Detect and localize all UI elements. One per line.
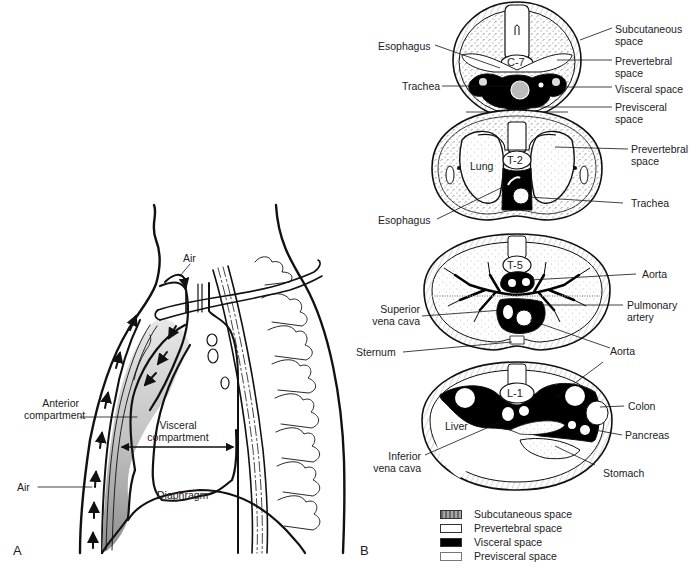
label-ivc-line2: vena cava [355,462,421,474]
label-colon: Colon [628,400,655,412]
vertebra-label-l1: L-1 [507,387,523,399]
vertebra-label-t2: T-2 [507,154,523,166]
anatomy-diagram [0,0,696,570]
panel-b-drawing [403,2,636,490]
label-c7-prevertebral-space: Prevertebral space [615,55,672,79]
label-liver: Liver [445,420,468,432]
label-stomach: Stomach [603,467,644,479]
label-c7-esophagus: Esophagus [378,40,431,52]
label-svc-line2: vena cava [356,315,420,327]
legend-item-subcutaneous: Subcutaneous space [440,507,572,521]
legend: Subcutaneous space Prevertebral space Vi… [440,507,572,563]
label-anterior-compartment: Anterior compartment [24,397,79,421]
label-visceral-line2: compartment [140,431,216,443]
swatch-previsceral [440,552,462,561]
label-visceral-line1: Visceral [140,419,216,431]
label-visceral-space: Visceral space [615,83,683,95]
label-air-bottom: Air [17,481,30,493]
label-anterior-line1: Anterior [24,397,79,409]
panel-letter-b: B [360,543,369,558]
label-t2-prevertebral-line2: space [631,155,688,167]
label-visceral-compartment: Visceral compartment [140,419,216,443]
panel-letter-a: A [13,543,22,558]
label-pulmonary-line2: artery [627,311,677,323]
swatch-visceral [440,538,462,547]
label-sternum: Sternum [356,346,396,358]
vertebra-label-c7: C-7 [507,56,525,68]
label-subcutaneous-space: Subcutaneous space [615,23,682,47]
label-ivc-line1: Inferior [355,450,421,462]
swatch-subcutaneous [440,510,462,519]
label-diaphragm: Diaphragm [157,489,208,501]
label-superior-vena-cava: Superior vena cava [356,303,420,327]
label-previsceral-line2: space [615,113,667,125]
legend-label: Subcutaneous space [474,508,572,520]
vertebra-label-t5: T-5 [507,259,523,271]
label-lung: Lung [470,160,493,172]
label-t2-prevertebral-space: Prevertebral space [631,143,688,167]
legend-label: Visceral space [474,536,542,548]
swatch-prevertebral [440,524,462,533]
label-previsceral-space: Previsceral space [615,101,667,125]
section-t5 [424,234,610,350]
label-previsceral-line1: Previsceral [615,101,667,113]
label-t5-aorta-lower: Aorta [610,345,635,357]
label-subcutaneous-line2: space [615,35,682,47]
legend-item-visceral: Visceral space [440,535,572,549]
label-anterior-line2: compartment [24,409,79,421]
label-t2-esophagus: Esophagus [378,214,431,226]
label-inferior-vena-cava: Inferior vena cava [355,450,421,474]
label-pancreas: Pancreas [625,429,669,441]
label-prevertebral-line2: space [615,67,672,79]
legend-label: Previsceral space [474,550,557,562]
legend-label: Prevertebral space [474,522,562,534]
label-c7-trachea: Trachea [402,80,440,92]
label-t2-trachea: Trachea [631,197,669,209]
label-air-top: Air [183,252,196,264]
label-svc-line1: Superior [356,303,420,315]
label-t5-aorta-upper: Aorta [642,268,667,280]
label-pulmonary-line1: Pulmonary [627,299,677,311]
label-pulmonary-artery: Pulmonary artery [627,299,677,323]
legend-item-prevertebral: Prevertebral space [440,521,572,535]
label-t2-prevertebral-line1: Prevertebral [631,143,688,155]
label-prevertebral-line1: Prevertebral [615,55,672,67]
label-subcutaneous-line1: Subcutaneous [615,23,682,35]
legend-item-previsceral: Previsceral space [440,549,572,563]
